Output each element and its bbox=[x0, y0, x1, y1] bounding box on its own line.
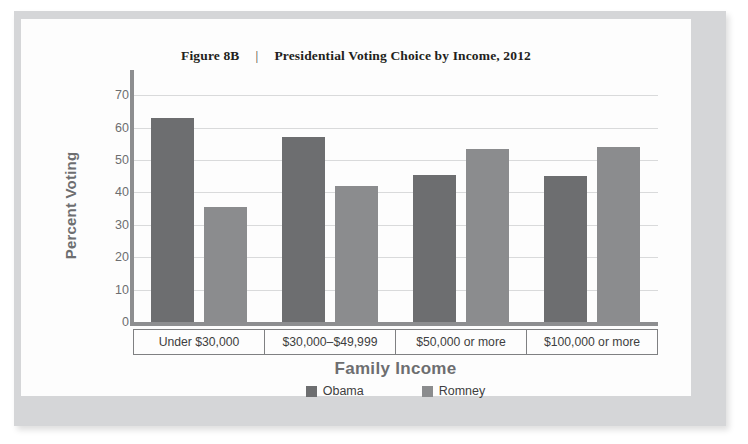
y-tick-label: 60 bbox=[97, 121, 129, 134]
x-category-label: Under $30,000 bbox=[134, 330, 265, 354]
figure-title: Figure 8B|Presidential Voting Choice by … bbox=[21, 48, 691, 64]
figure-page: Figure 8B|Presidential Voting Choice by … bbox=[0, 0, 748, 444]
y-tick-label: 70 bbox=[97, 89, 129, 102]
legend-label: Romney bbox=[439, 384, 486, 398]
x-axis-title: Family Income bbox=[133, 359, 658, 379]
legend-item-obama[interactable]: Obama bbox=[306, 384, 364, 398]
legend-label: Obama bbox=[323, 384, 364, 398]
y-tick-label: 0 bbox=[97, 316, 129, 329]
legend-item-romney[interactable]: Romney bbox=[422, 384, 486, 398]
chart-legend: ObamaRomney bbox=[133, 384, 658, 398]
bar-romney bbox=[204, 207, 247, 322]
figure-title-separator: | bbox=[256, 48, 259, 64]
bar-romney bbox=[597, 147, 640, 322]
figure-number: Figure 8B bbox=[181, 48, 239, 63]
bar-obama bbox=[544, 176, 587, 322]
x-category-label: $100,000 or more bbox=[527, 330, 657, 354]
x-category-label: $50,000 or more bbox=[396, 330, 527, 354]
bar-romney bbox=[335, 186, 378, 322]
y-tick-label: 10 bbox=[97, 283, 129, 296]
bar-chart: Percent Voting 010203040506070 Under $30… bbox=[21, 79, 691, 396]
bar-obama bbox=[151, 118, 194, 322]
legend-swatch-icon bbox=[422, 386, 433, 397]
y-axis-tick-labels: 010203040506070 bbox=[97, 79, 129, 322]
y-tick-label: 50 bbox=[97, 154, 129, 167]
y-tick-label: 40 bbox=[97, 186, 129, 199]
y-tick-label: 20 bbox=[97, 251, 129, 264]
legend-swatch-icon bbox=[306, 386, 317, 397]
figure-title-text: Presidential Voting Choice by Income, 20… bbox=[274, 48, 531, 63]
y-tick-label: 30 bbox=[97, 219, 129, 232]
figure-canvas: Figure 8B|Presidential Voting Choice by … bbox=[21, 19, 691, 396]
bar-series-group bbox=[133, 79, 658, 322]
x-category-label: $30,000–$49,999 bbox=[265, 330, 396, 354]
x-axis-category-labels: Under $30,000$30,000–$49,999$50,000 or m… bbox=[133, 329, 658, 355]
bar-obama bbox=[413, 175, 456, 322]
plot-area bbox=[133, 79, 658, 322]
x-axis-line bbox=[130, 322, 658, 326]
bar-obama bbox=[282, 137, 325, 322]
bar-romney bbox=[466, 149, 509, 322]
y-axis-title: Percent Voting bbox=[62, 121, 79, 291]
